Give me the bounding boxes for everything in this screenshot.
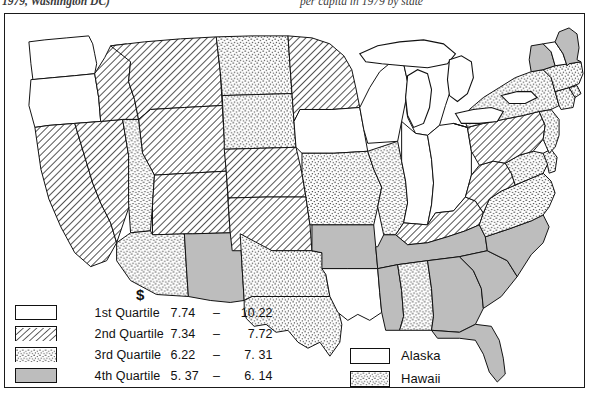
alaska-hawaii-legend: Alaska Hawaii [350,344,441,390]
legend-swatch-hawaii [350,371,390,387]
state-WY[interactable] [139,106,227,176]
state-IA[interactable] [294,107,368,153]
state-OR[interactable] [29,74,101,128]
state-SD[interactable] [222,94,296,150]
map-panel: $ 1st Quartile7.74–10.22 2nd Quartile7.3… [4,13,585,388]
caption-right-fragment: per capita in 1979 by state [300,0,423,7]
legend-swatch-q1 [15,305,57,320]
state-MO[interactable] [302,151,382,225]
caption-left-fragment: 1979, Washington DC) [2,0,110,7]
state-WI[interactable] [360,62,408,144]
legend-swatch-q2 [15,326,57,341]
state-AL[interactable] [398,261,434,331]
lake-huron [447,56,473,102]
legend-swatch-alaska [350,348,390,364]
legend-label-hawaii: Hawaii [401,371,441,386]
state-ND[interactable] [216,36,292,96]
state-AR[interactable] [312,225,378,269]
legend-swatch-q3 [15,347,57,362]
legend-label-q4: 4th Quartile5. 37–6. 14 [66,355,273,394]
legend-row-hawaii[interactable]: Hawaii [350,367,441,390]
legend-row-alaska[interactable]: Alaska [350,344,441,367]
lake-erie [455,107,503,123]
state-AZ[interactable] [117,231,189,297]
legend-label-alaska: Alaska [401,348,441,363]
state-NE[interactable] [224,147,306,198]
state-CO[interactable] [152,171,230,235]
legend-swatch-q4 [15,368,57,383]
legend-row-q4[interactable]: 4th Quartile5. 37–6. 14 [15,365,285,386]
map-legend: 1st Quartile7.74–10.22 2nd Quartile7.34–… [15,302,285,386]
lake-superior [360,40,456,68]
state-WA[interactable] [29,36,97,80]
figure-caption-strip: 1979, Washington DC) per capita in 1979 … [0,0,591,12]
state-FL[interactable] [432,324,506,382]
